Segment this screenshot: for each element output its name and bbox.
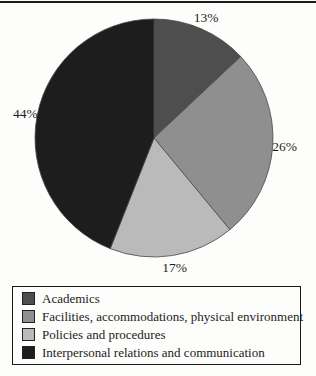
legend-label-academics: Academics (42, 292, 100, 306)
legend-swatch-interpersonal (22, 346, 35, 359)
legend-item-facilities: Facilities, accommodations, physical env… (22, 308, 300, 326)
pie-slice-pct-label-3: 17% (162, 260, 187, 275)
pie-slice-pct-label-2: 26% (272, 139, 297, 154)
legend-item-policies: Policies and procedures (22, 326, 300, 344)
pie-chart: 13%26%17%44% (0, 0, 316, 284)
legend-label-policies: Policies and procedures (42, 328, 165, 342)
pie-slice-pct-label-4: 44% (13, 106, 38, 121)
legend-item-academics: Academics (22, 290, 300, 308)
legend-swatch-policies (22, 328, 35, 341)
legend-label-interpersonal: Interpersonal relations and communicatio… (42, 346, 265, 360)
legend-item-interpersonal: Interpersonal relations and communicatio… (22, 344, 300, 362)
pie-slice-pct-label-1: 13% (194, 10, 219, 25)
legend-label-facilities: Facilities, accommodations, physical env… (42, 310, 303, 324)
legend: Academics Facilities, accommodations, ph… (12, 286, 301, 365)
figure-page: 13%26%17%44% Academics Facilities, accom… (0, 0, 316, 376)
legend-swatch-facilities (22, 310, 35, 323)
legend-swatch-academics (22, 292, 35, 305)
